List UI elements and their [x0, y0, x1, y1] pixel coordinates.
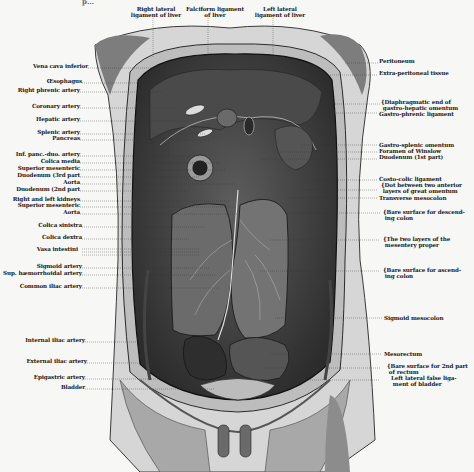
- label-duodenum-3rd-part: Duodenum (3rd part: [17, 172, 80, 178]
- label-mesorectum: Mesorectum: [384, 351, 422, 357]
- label-left-lateral-ligament: Left lateral ligament of liver: [252, 6, 308, 18]
- label-sigmoid-mesocolon: Sigmoid mesocolon: [384, 315, 443, 321]
- label-transverse-mesocolon: Transverse mesocolon: [379, 195, 446, 201]
- label-bare-surface-rectum: {Bare surface for 2nd part of rectum: [387, 363, 468, 375]
- label-oesophagus: Œsophagus: [47, 78, 82, 84]
- label-bladder: Bladder: [61, 384, 85, 390]
- label-colica-sinistra: Colica sinistra: [38, 222, 82, 228]
- label-internal-iliac-artery: Internal iliac artery: [25, 337, 85, 343]
- label-hepatic-artery: Hepatic artery: [36, 116, 80, 122]
- label-diaphragmatic-end-gastro-hepatic: {Diaphragmatic end of gastro-hepatic ome…: [381, 99, 458, 111]
- label-duodenum-2nd-part: Duodenum (2nd part: [16, 186, 80, 192]
- label-aorta-1: Aorta: [63, 179, 80, 185]
- label-inf-panc-duo-artery: Inf. panc.-duo. artery: [16, 151, 80, 157]
- label-sigmoid-artery: Sigmoid artery: [37, 263, 82, 269]
- label-vasa-intestini: Vasa intestini: [37, 246, 78, 252]
- label-external-iliac-artery: External iliac artery: [26, 358, 87, 364]
- label-coronary-artery: Coronary artery: [32, 103, 80, 109]
- label-common-iliac-artery: Common iliac artery: [20, 283, 82, 289]
- label-colica-media: Colica media: [41, 158, 80, 164]
- label-left-lateral-false-ligament-bladder: Left lateral false liga- ment of bladder: [391, 375, 457, 387]
- anatomical-figure: p…: [0, 0, 474, 472]
- label-pancreas: Pancreas: [52, 135, 80, 141]
- label-vena-cava-inferior: Vena cava inferior: [33, 63, 88, 69]
- label-bare-surface-ascending-colon: {Bare surface for ascend- ing colon: [383, 267, 461, 279]
- label-peritoneum: Peritoneum: [379, 58, 415, 64]
- label-sup-haemorrhoidal-artery: Sup. hæmorrhoidal artery: [3, 270, 82, 276]
- label-duodenum-1st-part: Duodenum (1st part): [379, 154, 443, 160]
- label-colica-dextra: Colica dextra: [42, 234, 82, 240]
- label-dot-great-omentum: {Dot between two anterior layers of grea…: [381, 182, 462, 194]
- label-mesentery-proper: {The two layers of the mesentery proper: [383, 236, 450, 248]
- label-right-lateral-ligament: Right lateral ligament of liver: [128, 6, 184, 18]
- label-superior-mesenteric-2: Superior mesenteric: [18, 202, 80, 208]
- label-extra-peritoneal-tissue: Extra-peritoneal tissue: [379, 70, 449, 76]
- label-epigastric-artery: Epigastric artery: [34, 374, 85, 380]
- label-right-phrenic-artery: Right phrenic artery: [18, 87, 80, 93]
- label-falciform-ligament: Falciform ligament of liver: [182, 6, 248, 18]
- label-gastro-phrenic-ligament: Gastro-phrenic ligament: [379, 111, 454, 117]
- label-aorta-2: Aorta: [63, 209, 80, 215]
- label-superior-mesenteric-1: Superior mesenteric: [18, 165, 80, 171]
- label-bare-surface-descending-colon: {Bare surface for descend- ing colon: [383, 209, 465, 221]
